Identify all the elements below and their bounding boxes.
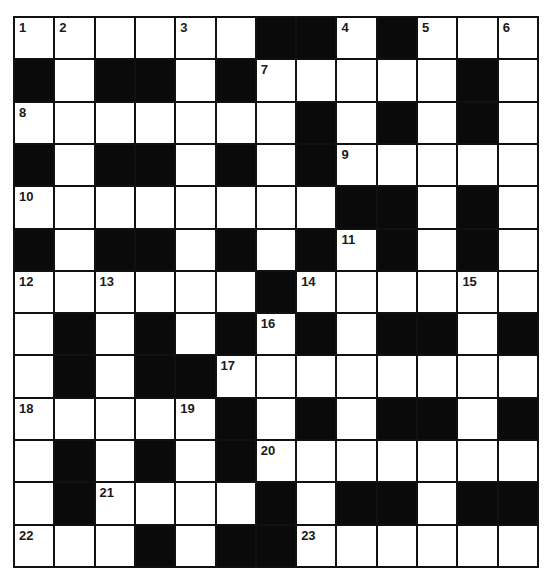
letter-cell[interactable] [418, 187, 456, 227]
letter-cell[interactable] [378, 356, 416, 396]
letter-cell[interactable] [55, 399, 93, 439]
letter-cell[interactable]: 18 [15, 399, 53, 439]
letter-cell[interactable] [217, 272, 255, 312]
letter-cell[interactable] [96, 526, 134, 566]
letter-cell[interactable] [499, 356, 537, 396]
letter-cell[interactable]: 4 [337, 18, 375, 58]
letter-cell[interactable]: 6 [499, 18, 537, 58]
letter-cell[interactable] [297, 483, 335, 523]
letter-cell[interactable] [96, 103, 134, 143]
letter-cell[interactable] [337, 399, 375, 439]
letter-cell[interactable]: 9 [337, 145, 375, 185]
letter-cell[interactable] [55, 103, 93, 143]
letter-cell[interactable] [499, 145, 537, 185]
letter-cell[interactable] [418, 230, 456, 270]
letter-cell[interactable] [458, 399, 496, 439]
letter-cell[interactable] [176, 60, 214, 100]
letter-cell[interactable] [499, 230, 537, 270]
letter-cell[interactable] [136, 187, 174, 227]
letter-cell[interactable] [297, 60, 335, 100]
letter-cell[interactable] [337, 526, 375, 566]
letter-cell[interactable] [217, 103, 255, 143]
letter-cell[interactable] [418, 483, 456, 523]
letter-cell[interactable] [176, 441, 214, 481]
letter-cell[interactable] [499, 441, 537, 481]
letter-cell[interactable] [15, 356, 53, 396]
letter-cell[interactable] [257, 399, 295, 439]
letter-cell[interactable] [458, 145, 496, 185]
letter-cell[interactable] [15, 441, 53, 481]
letter-cell[interactable] [458, 356, 496, 396]
letter-cell[interactable] [96, 399, 134, 439]
letter-cell[interactable]: 19 [176, 399, 214, 439]
letter-cell[interactable] [337, 441, 375, 481]
letter-cell[interactable] [458, 314, 496, 354]
letter-cell[interactable] [297, 441, 335, 481]
letter-cell[interactable] [15, 314, 53, 354]
letter-cell[interactable] [378, 272, 416, 312]
letter-cell[interactable] [418, 526, 456, 566]
letter-cell[interactable]: 13 [96, 272, 134, 312]
letter-cell[interactable] [96, 187, 134, 227]
letter-cell[interactable] [378, 441, 416, 481]
letter-cell[interactable] [458, 526, 496, 566]
letter-cell[interactable]: 8 [15, 103, 53, 143]
letter-cell[interactable]: 16 [257, 314, 295, 354]
letter-cell[interactable]: 3 [176, 18, 214, 58]
letter-cell[interactable] [418, 356, 456, 396]
letter-cell[interactable] [136, 483, 174, 523]
letter-cell[interactable] [136, 18, 174, 58]
letter-cell[interactable] [257, 356, 295, 396]
letter-cell[interactable] [257, 230, 295, 270]
letter-cell[interactable] [378, 60, 416, 100]
letter-cell[interactable] [136, 272, 174, 312]
letter-cell[interactable]: 21 [96, 483, 134, 523]
letter-cell[interactable] [136, 399, 174, 439]
letter-cell[interactable]: 17 [217, 356, 255, 396]
letter-cell[interactable] [297, 356, 335, 396]
letter-cell[interactable] [176, 526, 214, 566]
letter-cell[interactable]: 23 [297, 526, 335, 566]
letter-cell[interactable] [55, 272, 93, 312]
letter-cell[interactable] [176, 314, 214, 354]
letter-cell[interactable] [337, 272, 375, 312]
letter-cell[interactable] [176, 145, 214, 185]
letter-cell[interactable]: 10 [15, 187, 53, 227]
letter-cell[interactable] [418, 441, 456, 481]
letter-cell[interactable] [337, 314, 375, 354]
letter-cell[interactable]: 1 [15, 18, 53, 58]
letter-cell[interactable] [499, 272, 537, 312]
letter-cell[interactable]: 15 [458, 272, 496, 312]
letter-cell[interactable]: 14 [297, 272, 335, 312]
letter-cell[interactable] [55, 60, 93, 100]
letter-cell[interactable] [176, 272, 214, 312]
letter-cell[interactable] [337, 356, 375, 396]
letter-cell[interactable] [499, 60, 537, 100]
letter-cell[interactable] [136, 103, 174, 143]
letter-cell[interactable]: 20 [257, 441, 295, 481]
letter-cell[interactable] [499, 187, 537, 227]
letter-cell[interactable]: 11 [337, 230, 375, 270]
letter-cell[interactable] [378, 526, 416, 566]
letter-cell[interactable] [337, 60, 375, 100]
letter-cell[interactable] [176, 483, 214, 523]
letter-cell[interactable]: 7 [257, 60, 295, 100]
letter-cell[interactable] [458, 18, 496, 58]
letter-cell[interactable] [55, 187, 93, 227]
letter-cell[interactable] [55, 145, 93, 185]
letter-cell[interactable] [499, 526, 537, 566]
letter-cell[interactable] [96, 18, 134, 58]
letter-cell[interactable] [418, 272, 456, 312]
letter-cell[interactable] [176, 103, 214, 143]
letter-cell[interactable] [257, 187, 295, 227]
letter-cell[interactable] [458, 441, 496, 481]
letter-cell[interactable] [96, 356, 134, 396]
letter-cell[interactable] [55, 230, 93, 270]
letter-cell[interactable] [217, 18, 255, 58]
letter-cell[interactable] [257, 103, 295, 143]
letter-cell[interactable] [418, 103, 456, 143]
letter-cell[interactable] [55, 526, 93, 566]
letter-cell[interactable] [96, 441, 134, 481]
letter-cell[interactable] [176, 230, 214, 270]
letter-cell[interactable] [217, 483, 255, 523]
